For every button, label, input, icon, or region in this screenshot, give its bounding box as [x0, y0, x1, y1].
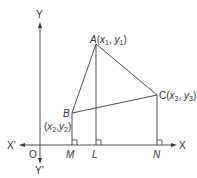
side-bc — [72, 95, 157, 113]
right-angle-icon-m — [72, 140, 77, 145]
right-angle-icon-n — [157, 140, 162, 145]
y-axis — [38, 22, 42, 164]
x-axis-right-arrow-icon — [171, 143, 177, 147]
point-n-label: N — [153, 149, 161, 160]
y-axis-label: Y — [36, 9, 43, 20]
point-l-label: L — [92, 149, 98, 160]
point-a-label: A(x1, y1) — [89, 34, 127, 46]
point-m-label: M — [66, 149, 75, 160]
x-axis — [19, 143, 177, 147]
point-c-label: C(x3, y3) — [159, 90, 196, 102]
y-axis-up-arrow-icon — [38, 22, 42, 28]
point-b-coords-label: (x2,y2) — [44, 121, 71, 133]
side-ac — [96, 44, 157, 95]
y-axis-down-arrow-icon — [38, 158, 42, 164]
right-angle-markers — [72, 140, 162, 145]
triangle-abc — [72, 44, 157, 113]
x-prime-axis-label: X' — [7, 140, 16, 151]
point-b-label: B — [63, 108, 70, 119]
side-ab — [72, 44, 96, 113]
x-axis-left-arrow-icon — [19, 143, 25, 147]
x-axis-label: X — [179, 140, 186, 151]
origin-label: O — [29, 149, 37, 160]
triangle-coordinate-diagram: Y Y' X X' O M L N A(x1, y1) C(x3, y3) B … — [0, 0, 197, 178]
right-angle-icon-l — [96, 140, 101, 145]
y-prime-axis-label: Y' — [35, 165, 44, 176]
